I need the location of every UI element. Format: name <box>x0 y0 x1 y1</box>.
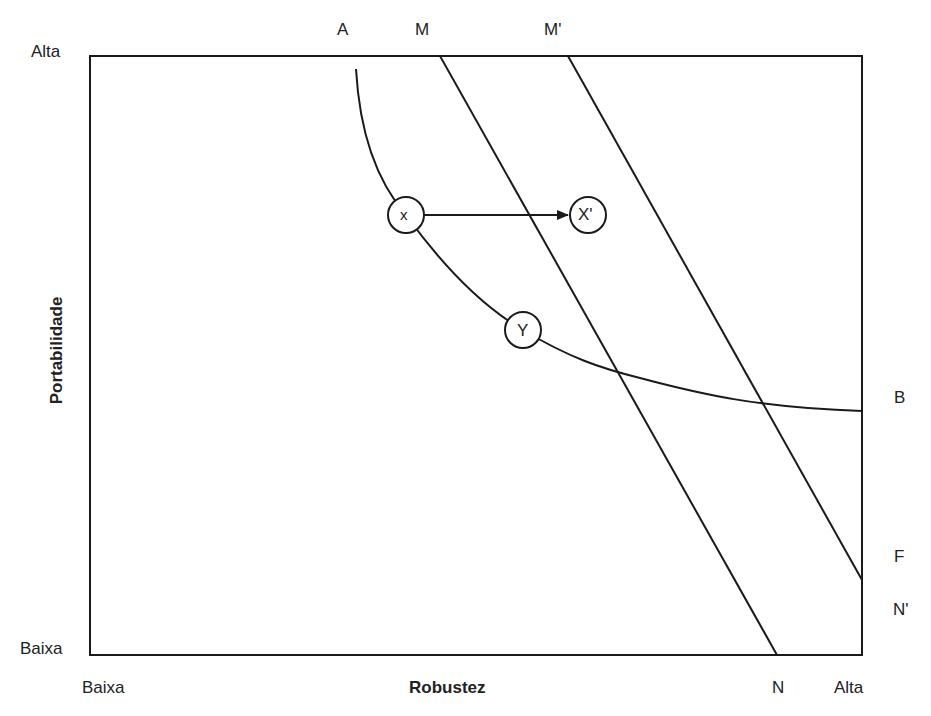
x-axis-title: Robustez <box>409 679 486 696</box>
x-high-label: Alta <box>834 679 863 696</box>
line-label-m: M <box>415 21 429 38</box>
plot-frame <box>90 56 862 655</box>
node-x-label: x <box>400 207 408 222</box>
line-label-f: F <box>894 548 904 565</box>
node-x-prime-label: X' <box>578 206 593 223</box>
diagram-canvas <box>0 0 931 716</box>
x-low-label: Baixa <box>82 679 125 696</box>
line-label-n-prime: N' <box>893 601 909 618</box>
curve-a-b <box>356 69 862 411</box>
curve-label-b: B <box>894 389 905 406</box>
curve-label-a: A <box>337 21 348 38</box>
y-low-label: Baixa <box>20 640 63 657</box>
y-axis-title: Portabilidade <box>48 291 65 411</box>
line-label-n: N <box>772 679 784 696</box>
node-y-label: Y <box>517 322 528 339</box>
line-m-n <box>440 56 777 655</box>
line-label-m-prime: M' <box>544 21 561 38</box>
line-m-prime-f <box>568 56 862 580</box>
y-high-label: Alta <box>31 43 60 60</box>
